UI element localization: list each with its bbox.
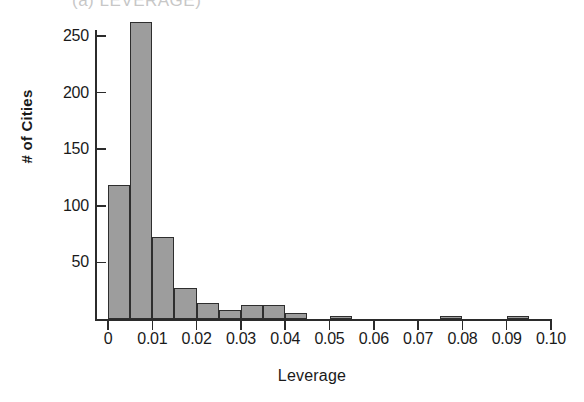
x-axis-tick <box>506 319 508 330</box>
x-axis-tick <box>152 319 154 330</box>
x-axis-tick <box>196 319 198 330</box>
x-axis-tick <box>329 319 331 330</box>
y-axis-tick-label: 200 <box>43 85 89 101</box>
y-axis-tick-label: 250 <box>43 28 89 44</box>
x-axis-tick <box>284 319 286 330</box>
x-axis-tick <box>417 319 419 330</box>
x-axis-tick-label: 0.07 <box>403 331 433 347</box>
y-axis-tick <box>95 35 106 37</box>
histogram-bar <box>130 22 152 319</box>
histogram-bar <box>241 305 263 319</box>
y-axis-label: # of Cities <box>18 72 35 182</box>
x-axis-tick <box>462 319 464 330</box>
y-axis-spine <box>95 30 97 319</box>
y-axis-tick-label: 50 <box>43 254 89 270</box>
x-axis-tick-label: 0.01 <box>137 331 167 347</box>
x-axis-tick <box>373 319 375 330</box>
histogram-bar <box>152 237 174 319</box>
cut-off-title: (a) LEVERAGE) <box>72 0 201 11</box>
x-axis-tick-label: 0.04 <box>270 331 300 347</box>
y-axis-tick <box>95 262 106 264</box>
histogram-bar <box>197 303 219 319</box>
x-axis-tick-label: 0.06 <box>359 331 389 347</box>
x-axis-label-text: Leverage <box>278 367 346 385</box>
histogram-bar <box>285 313 307 319</box>
histogram-bar <box>219 310 241 319</box>
x-axis-tick-label: 0.05 <box>315 331 345 347</box>
y-axis-tick-label: 150 <box>43 141 89 157</box>
x-axis-tick-label: 0 <box>104 331 113 347</box>
x-axis-tick <box>240 319 242 330</box>
x-axis-tick <box>550 319 552 330</box>
histogram-figure: (a) LEVERAGE) # of Cities Leverage 50100… <box>0 0 584 402</box>
y-axis-tick-label: 100 <box>43 198 89 214</box>
y-axis-tick <box>95 92 106 94</box>
histogram-bar <box>330 316 352 319</box>
x-axis-tick-label: 0.10 <box>536 331 566 347</box>
histogram-bar <box>507 316 529 319</box>
histogram-bar <box>108 185 130 319</box>
x-axis-tick-label: 0.08 <box>447 331 477 347</box>
x-axis-tick <box>107 319 109 330</box>
x-axis-label: Leverage <box>0 367 584 385</box>
histogram-bar <box>174 288 196 319</box>
histogram-bar <box>440 316 462 319</box>
y-axis-tick <box>95 205 106 207</box>
x-axis-spine <box>95 319 552 321</box>
y-axis-tick <box>95 148 106 150</box>
x-axis-tick-label: 0.09 <box>492 331 522 347</box>
x-axis-tick-label: 0.02 <box>182 331 212 347</box>
x-axis-tick-label: 0.03 <box>226 331 256 347</box>
histogram-bar <box>263 305 285 319</box>
